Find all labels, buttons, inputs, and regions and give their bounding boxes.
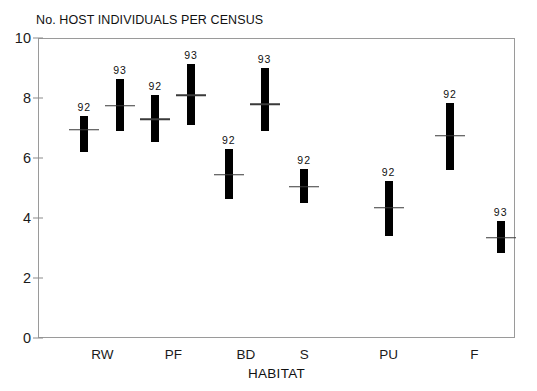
range-bar-f-93: 93 <box>484 38 518 338</box>
y-axis-tick-label: 8 <box>23 90 31 106</box>
y-axis-tick-mark <box>33 38 43 39</box>
y-axis-tick-mark <box>33 278 43 279</box>
range-bar-mean-marker <box>140 118 170 120</box>
range-bar-body <box>446 103 454 171</box>
range-bar-mean-marker <box>374 207 404 209</box>
range-bar-bd-92: 92 <box>212 38 246 338</box>
range-bar-mean-marker <box>214 174 244 176</box>
range-bar-f-92: 92 <box>433 38 467 338</box>
range-bar-mean-marker <box>176 94 206 96</box>
plot-area: HABITAT 0246810RWPFBDSPUF929392939293929… <box>38 38 515 338</box>
range-bar-year-label: 92 <box>77 101 91 113</box>
x-axis-tick-label-pu: PU <box>379 347 398 362</box>
chart-figure: No. HOST INDIVIDUALS PER CENSUS HABITAT … <box>0 0 537 391</box>
range-bar-s-92: 92 <box>287 38 321 338</box>
range-bar-mean-marker <box>486 237 516 239</box>
x-axis-tick-label-rw: RW <box>91 347 113 362</box>
range-bar-year-label: 92 <box>382 166 396 178</box>
x-axis-tick-label-bd: BD <box>237 347 256 362</box>
x-axis-tick-label-s: S <box>300 347 309 362</box>
range-bar-pu-92: 92 <box>372 38 406 338</box>
y-axis-tick-label: 10 <box>15 30 31 46</box>
range-bar-bd-93: 93 <box>248 38 282 338</box>
range-bar-year-label: 92 <box>148 80 162 92</box>
range-bar-body <box>80 116 88 152</box>
range-bar-mean-marker <box>69 129 99 131</box>
range-bar-mean-marker <box>250 103 280 105</box>
y-axis-tick-mark <box>33 98 43 99</box>
range-bar-body <box>385 181 393 237</box>
x-axis-title: HABITAT <box>248 366 305 381</box>
range-bar-year-label: 92 <box>222 134 236 146</box>
y-axis-tick-mark <box>33 218 43 219</box>
y-axis-tick-mark <box>33 158 43 159</box>
range-bar-year-label: 93 <box>494 206 508 218</box>
y-axis-tick-label: 4 <box>23 210 31 226</box>
range-bar-year-label: 93 <box>258 53 272 65</box>
range-bar-body <box>261 68 269 131</box>
y-axis-tick-label: 2 <box>23 270 31 286</box>
range-bar-pf-92: 92 <box>138 38 172 338</box>
range-bar-pf-93: 93 <box>174 38 208 338</box>
chart-title: No. HOST INDIVIDUALS PER CENSUS <box>36 13 263 27</box>
y-axis-tick-label: 6 <box>23 150 31 166</box>
range-bar-year-label: 92 <box>297 154 311 166</box>
y-axis-tick-mark <box>33 338 43 339</box>
x-axis-tick-label-f: F <box>470 347 478 362</box>
x-axis-tick-label-pf: PF <box>165 347 182 362</box>
range-bar-rw-93: 93 <box>103 38 137 338</box>
y-axis-tick-label: 0 <box>23 330 31 346</box>
range-bar-year-label: 93 <box>184 49 198 61</box>
range-bar-mean-marker <box>105 105 135 107</box>
range-bar-year-label: 93 <box>113 64 127 76</box>
range-bar-rw-92: 92 <box>67 38 101 338</box>
range-bar-mean-marker <box>435 135 465 137</box>
range-bar-year-label: 92 <box>443 88 457 100</box>
range-bar-mean-marker <box>289 186 319 188</box>
